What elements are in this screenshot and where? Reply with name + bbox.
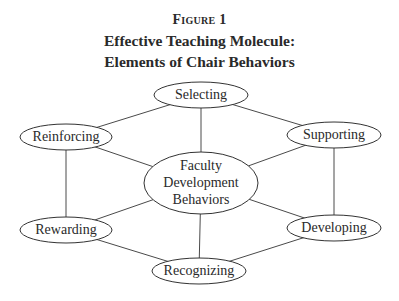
node-supporting: Supporting bbox=[287, 122, 381, 148]
node-label: Development bbox=[163, 175, 239, 190]
node-reinforcing: Reinforcing bbox=[20, 124, 112, 150]
node-label: Reinforcing bbox=[33, 129, 100, 144]
node-faculty-development-behaviors: FacultyDevelopmentBehaviors bbox=[144, 152, 258, 214]
node-label: Behaviors bbox=[173, 192, 230, 207]
node-label: Selecting bbox=[175, 87, 227, 102]
node-label: Faculty bbox=[180, 158, 222, 173]
node-rewarding: Rewarding bbox=[20, 217, 112, 243]
node-selecting: Selecting bbox=[154, 82, 248, 108]
node-label: Developing bbox=[301, 220, 366, 235]
node-developing: Developing bbox=[287, 215, 381, 241]
node-recognizing: Recognizing bbox=[152, 258, 246, 284]
node-label: Recognizing bbox=[164, 263, 235, 278]
node-label: Rewarding bbox=[35, 222, 96, 237]
teaching-molecule-diagram: SelectingSupportingDevelopingRecognizing… bbox=[0, 0, 399, 301]
node-label: Supporting bbox=[303, 127, 365, 142]
